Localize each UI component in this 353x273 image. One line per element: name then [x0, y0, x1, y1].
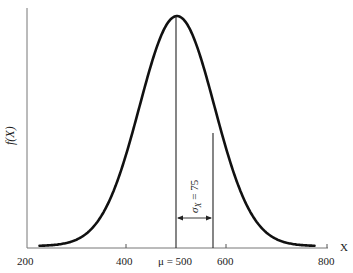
svg-text:f(X): f(X) — [3, 126, 17, 145]
arrow-left-icon — [177, 216, 183, 221]
arrow-right-icon — [206, 216, 212, 221]
sigma-label: σX= 75 — [188, 179, 203, 213]
x-tick-label-400: 400 — [116, 255, 133, 267]
x-tick-label-600: 600 — [217, 255, 234, 267]
y-axis-label: f(X) — [3, 126, 17, 145]
x-tick-label-800: 800 — [318, 255, 335, 267]
svg-text:σX= 75: σX= 75 — [188, 179, 203, 213]
x-tick-label-200: 200 — [17, 255, 34, 267]
x-axis-label: X — [340, 241, 348, 253]
normal-curve-chart: σX= 75 f(X) 200 400 μ = 500 600 800 X — [0, 0, 353, 273]
normal-density-curve — [40, 16, 315, 246]
mean-label: μ = 500 — [158, 255, 193, 267]
